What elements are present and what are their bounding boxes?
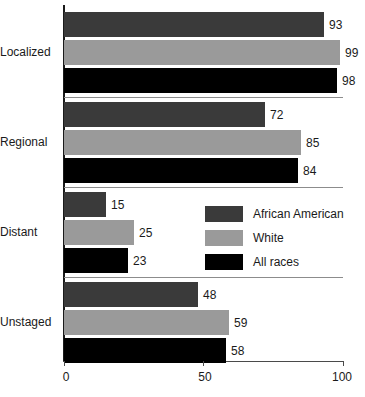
bar-value-localized-white: 99 — [345, 47, 358, 59]
bar-localized-all-races — [64, 68, 337, 93]
legend-item-african-american: African American — [205, 203, 344, 224]
bar-value-distant-african-american: 15 — [111, 199, 124, 211]
bar-localized-african-american — [64, 12, 324, 37]
bar-unstaged-white — [64, 310, 229, 335]
legend-label-all-races: All races — [253, 256, 299, 268]
bar-value-regional-african-american: 72 — [270, 109, 283, 121]
bar-value-unstaged-african-american: 48 — [203, 289, 216, 301]
x-tick-label-100: 100 — [332, 371, 352, 383]
bar-unstaged-all-races — [64, 338, 226, 363]
bar-localized-white — [64, 40, 340, 65]
bar-regional-all-races — [64, 158, 298, 183]
legend-item-white: White — [205, 227, 344, 248]
bar-regional-african-american — [64, 102, 265, 127]
x-tick-mark-100 — [343, 361, 344, 366]
bar-distant-white — [64, 220, 134, 245]
bar-value-localized-all-races: 98 — [342, 75, 355, 87]
legend-swatch-icon-white — [205, 230, 243, 246]
bar-unstaged-african-american — [64, 282, 198, 307]
bar-value-distant-white: 25 — [139, 227, 152, 239]
group-separator-1 — [64, 97, 343, 98]
group-separator-3 — [64, 277, 343, 278]
group-separator-2 — [64, 187, 343, 188]
bar-value-regional-all-races: 84 — [303, 165, 316, 177]
legend-label-african-american: African American — [253, 208, 344, 220]
category-label-unstaged: Unstaged — [0, 316, 58, 328]
bar-value-regional-white: 85 — [306, 137, 319, 149]
chart-legend: African American White All races — [205, 203, 344, 275]
legend-label-white: White — [253, 232, 284, 244]
x-tick-label-0: 0 — [63, 371, 70, 383]
bar-distant-african-american — [64, 192, 106, 217]
bar-value-distant-all-races: 23 — [133, 255, 146, 267]
legend-swatch-icon-african-american — [205, 206, 243, 222]
bar-regional-white — [64, 130, 301, 155]
legend-swatch-icon-all-races — [205, 254, 243, 270]
x-tick-mark-50 — [203, 361, 204, 366]
category-label-localized: Localized — [0, 46, 58, 58]
x-tick-label-50: 50 — [198, 371, 211, 383]
category-label-distant: Distant — [0, 226, 58, 238]
bar-value-localized-african-american: 93 — [329, 19, 342, 31]
x-tick-mark-0 — [64, 361, 65, 366]
bar-chart: Localized 93 99 98 Regional 72 85 84 Dis… — [0, 0, 365, 397]
bar-value-unstaged-all-races: 58 — [231, 345, 244, 357]
bar-distant-all-races — [64, 248, 128, 273]
legend-item-all-races: All races — [205, 251, 344, 272]
bar-value-unstaged-white: 59 — [234, 317, 247, 329]
category-label-regional: Regional — [0, 136, 58, 148]
